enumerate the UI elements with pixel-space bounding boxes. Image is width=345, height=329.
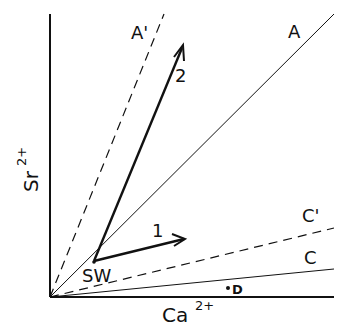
y-axis-label: Sr: [19, 170, 43, 192]
label-d: D: [232, 282, 243, 297]
d-point-icon: [226, 286, 230, 290]
arrow-1: [94, 234, 185, 261]
label-c: C: [304, 247, 317, 268]
ratio-diagram: A' A C' C 2 1 SW D Ca 2+ Sr 2+: [0, 0, 345, 329]
y-axis-superscript: 2+: [14, 147, 29, 166]
label-c-prime: C': [302, 205, 320, 226]
label-sw: SW: [82, 265, 111, 286]
label-arrow-2: 2: [175, 65, 186, 86]
sw-point-icon: [92, 260, 96, 264]
label-a: A: [288, 21, 301, 42]
label-arrow-1: 1: [152, 220, 163, 241]
label-a-prime: A': [131, 22, 148, 43]
line-a-prime: [50, 14, 164, 297]
x-axis-label: Ca: [162, 303, 188, 327]
x-axis-superscript: 2+: [195, 298, 214, 313]
line-a: [50, 14, 334, 297]
